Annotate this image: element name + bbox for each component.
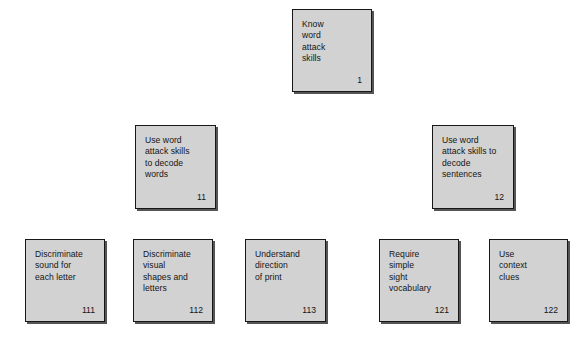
task-box-subskill-122[interactable]: Use context clues122: [489, 239, 568, 322]
task-box-number: 121: [435, 305, 451, 317]
task-box-goal[interactable]: Know word attack skills1: [292, 9, 372, 92]
task-box-number: 112: [189, 305, 205, 317]
task-box-number: 122: [544, 305, 560, 317]
task-box-number: 12: [494, 192, 506, 204]
task-box-label: Know word attack skills: [302, 19, 364, 65]
task-box-number: 113: [302, 305, 318, 317]
task-box-number: 111: [82, 305, 97, 317]
task-box-label: Require simple sight vocabulary: [389, 249, 451, 295]
task-box-label: Discriminate visual shapes and letters: [143, 249, 205, 295]
task-box-label: Use word attack skills to decode sentenc…: [442, 135, 506, 181]
task-box-subskill-121[interactable]: Require simple sight vocabulary121: [379, 239, 459, 322]
task-box-label: Use context clues: [499, 249, 560, 283]
task-box-label: Discriminate sound for each letter: [35, 249, 97, 283]
task-box-label: Understand direction of print: [255, 249, 318, 283]
task-box-subskill-112[interactable]: Discriminate visual shapes and letters11…: [133, 239, 213, 322]
task-box-label: Use word attack skills to decode words: [145, 135, 208, 181]
task-box-subskill-11[interactable]: Use word attack skills to decode words11: [135, 125, 216, 209]
diagram-canvas: Know word attack skills1Use word attack …: [0, 0, 577, 347]
task-box-subskill-111[interactable]: Discriminate sound for each letter111: [25, 239, 105, 322]
task-box-subskill-113[interactable]: Understand direction of print113: [245, 239, 326, 322]
task-box-subskill-12[interactable]: Use word attack skills to decode sentenc…: [432, 125, 514, 209]
task-box-number: 1: [357, 75, 364, 87]
task-box-number: 11: [197, 192, 208, 204]
